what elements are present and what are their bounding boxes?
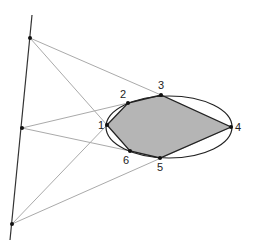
vertex-point — [126, 101, 130, 105]
vertex-point — [158, 156, 162, 160]
vertex-label: 4 — [235, 121, 241, 133]
diagram-svg: 123456 — [0, 0, 253, 250]
vertex-label: 5 — [157, 161, 163, 173]
vertex-label: 3 — [158, 79, 164, 91]
projection-line — [30, 38, 107, 125]
external-point — [10, 222, 14, 226]
vertex-point — [105, 123, 109, 127]
vertex-label: 2 — [120, 88, 126, 100]
projection-line — [30, 38, 161, 95]
projection-line — [12, 125, 107, 224]
diagram-canvas: 123456 — [0, 0, 253, 250]
vertex-point — [128, 149, 132, 153]
vertex-point — [159, 93, 163, 97]
external-point — [20, 126, 24, 130]
external-point — [28, 36, 32, 40]
vertex-label: 6 — [123, 154, 129, 166]
vertex-point — [229, 125, 233, 129]
vertex-label: 1 — [98, 119, 104, 131]
